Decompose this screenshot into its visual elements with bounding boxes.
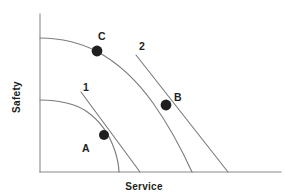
- data-point-b: [161, 100, 172, 111]
- point-label-c: C: [98, 30, 106, 42]
- tangent-line-1: [81, 92, 140, 172]
- tangent-label-2: 2: [139, 40, 145, 52]
- safety-service-chart: A B C 1 2 Service Safety: [0, 0, 285, 196]
- tangent-line-2: [136, 55, 228, 172]
- x-axis-title: Service: [125, 181, 163, 192]
- point-label-a: A: [82, 142, 90, 154]
- data-point-c: [92, 46, 103, 57]
- tangent-label-1: 1: [83, 81, 89, 93]
- y-axis-title: Safety: [11, 81, 22, 113]
- point-label-b: B: [174, 91, 182, 103]
- chart-container: A B C 1 2 Service Safety: [0, 0, 285, 196]
- data-point-a: [99, 130, 109, 140]
